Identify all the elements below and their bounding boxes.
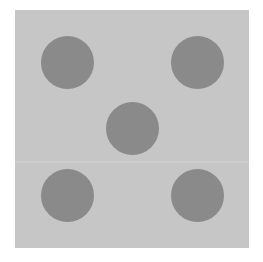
seam-line (15, 161, 249, 163)
die-face (15, 10, 249, 248)
pip-center (106, 102, 159, 155)
pip-bottom-right (171, 169, 224, 222)
pip-bottom-left (41, 169, 94, 222)
pip-top-left (41, 36, 94, 89)
pip-top-right (171, 36, 224, 89)
